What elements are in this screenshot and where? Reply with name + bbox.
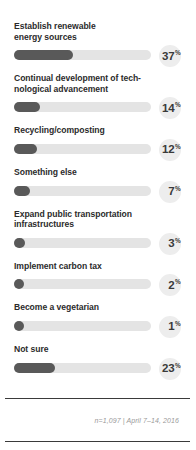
bar-value-number: 37 (162, 50, 174, 62)
bar-track-area: 3% (14, 234, 181, 253)
bar-label: Establish renewable energy sources (14, 21, 181, 42)
bar-track-area: 12% (14, 140, 181, 159)
bar-label: Something else (14, 167, 181, 178)
bar-value: 14% (162, 98, 180, 117)
bar-value: 7% (168, 182, 180, 201)
chart-page: Establish renewable energy sources 37% C… (0, 0, 196, 450)
bar-value-number: 14 (162, 102, 174, 114)
bar-row: Become a vegetarian 1% (14, 302, 181, 336)
percent-symbol: % (175, 237, 180, 244)
bar-value-number: 2 (168, 279, 174, 291)
bar-track-area: 7% (14, 182, 181, 201)
percent-symbol: % (175, 278, 180, 285)
bar-row: Establish renewable energy sources 37% (14, 21, 181, 65)
bar-fill (14, 363, 55, 373)
bar-row: Expand public transportation infrastruct… (14, 209, 181, 253)
bar-value-number: 12 (162, 143, 174, 155)
bar-track (14, 144, 151, 154)
percent-symbol: % (175, 185, 180, 192)
percent-symbol: % (175, 143, 180, 150)
bar-fill (14, 186, 30, 196)
bar-list: Establish renewable energy sources 37% C… (14, 21, 181, 378)
chart-footer: n=1,097 | April 7–14, 2016 (5, 399, 190, 441)
bar-track (14, 279, 151, 289)
bar-value-number: 3 (168, 237, 174, 249)
bar-track-area: 23% (14, 359, 181, 378)
bar-row: Something else 7% (14, 167, 181, 201)
bar-value: 37% (162, 46, 180, 65)
bar-fill (14, 102, 40, 112)
bar-row: Continual development of tech- nological… (14, 73, 181, 117)
bar-fill (14, 238, 25, 248)
bar-fill (14, 321, 24, 331)
bar-track (14, 363, 151, 373)
bar-track (14, 238, 151, 248)
bar-fill (14, 50, 73, 60)
bar-track-area: 2% (14, 275, 181, 294)
bar-track-area: 1% (14, 317, 181, 336)
bar-value: 3% (168, 234, 180, 253)
bar-row: Not sure 23% (14, 344, 181, 378)
bar-row: Implement carbon tax 2% (14, 261, 181, 295)
bar-fill (14, 144, 37, 154)
bar-track (14, 102, 151, 112)
bar-value-number: 1 (168, 320, 174, 332)
bar-label: Expand public transportation infrastruct… (14, 209, 181, 230)
chart-card: Establish renewable energy sources 37% C… (5, 4, 190, 395)
percent-symbol: % (175, 49, 180, 56)
bar-label: Not sure (14, 344, 181, 355)
bar-track (14, 186, 151, 196)
bar-label: Become a vegetarian (14, 302, 181, 313)
bar-value: 1% (168, 317, 180, 336)
bar-track-area: 37% (14, 46, 181, 65)
bar-value: 12% (162, 140, 180, 159)
bar-value: 2% (168, 275, 180, 294)
bar-fill (14, 279, 24, 289)
footer-bottom-rule (5, 441, 190, 442)
bar-label: Continual development of tech- nological… (14, 73, 181, 94)
bar-label: Implement carbon tax (14, 261, 181, 272)
bar-value-number: 7 (168, 185, 174, 197)
percent-symbol: % (175, 362, 180, 369)
bar-track-area: 14% (14, 98, 181, 117)
bar-value-number: 23 (162, 362, 174, 374)
bar-value: 23% (162, 359, 180, 378)
bar-label: Recycling/composting (14, 125, 181, 136)
sample-size-note: n=1,097 | April 7–14, 2016 (94, 417, 179, 424)
bar-row: Recycling/composting 12% (14, 125, 181, 159)
bar-track (14, 50, 151, 60)
bar-track (14, 321, 151, 331)
percent-symbol: % (175, 101, 180, 108)
percent-symbol: % (175, 320, 180, 327)
